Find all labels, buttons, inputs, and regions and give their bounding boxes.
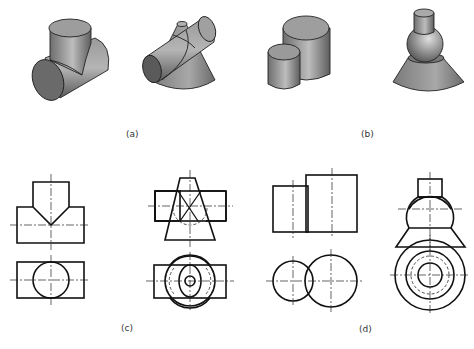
ortho-tee [10,174,90,305]
iso-two-cylinders [268,16,330,89]
ortho-two-cylinders [266,168,364,312]
iso-cylinder-through-cone [140,14,219,89]
label-d: (d) [359,324,372,334]
label-b: (b) [361,129,374,139]
label-a: (a) [126,129,139,139]
ortho-sphere-stack [390,172,470,315]
figure-canvas [0,0,474,349]
ortho-cone-cylinder [146,170,234,310]
iso-tee-cylinders [27,19,109,105]
label-c: (c) [121,323,133,333]
iso-sphere-stack [393,9,464,91]
